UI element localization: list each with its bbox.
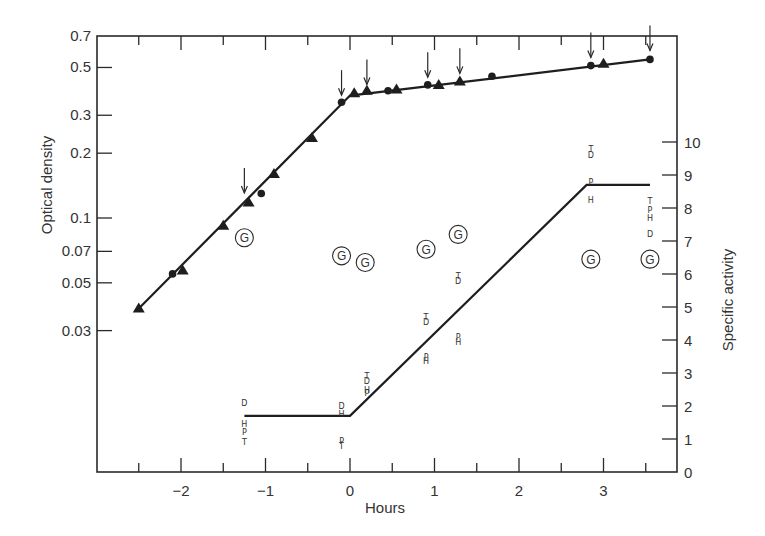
letter-label: D: [423, 318, 429, 327]
triangle-marker: [217, 220, 229, 230]
letter-label: D: [588, 151, 594, 160]
arrow-annotations: [241, 25, 653, 193]
fit-line: [244, 185, 650, 416]
right-y-axis-title: Specific activity: [719, 248, 736, 351]
right-tick-label: 10: [684, 134, 701, 151]
x-tick-label: 3: [599, 482, 607, 499]
g-label: G: [337, 249, 346, 263]
letter-label: D: [241, 399, 247, 408]
left-tick-label: 0.7: [70, 27, 91, 44]
letter-label: H: [647, 214, 653, 223]
x-tick-label: −1: [257, 482, 274, 499]
x-axis-title: Hours: [365, 499, 405, 516]
right-tick-label: 9: [684, 167, 692, 184]
left-tick-label: 0.3: [70, 106, 91, 123]
right-y-axis: 012345678910: [662, 134, 701, 481]
g-label: G: [586, 253, 595, 267]
circle-marker: [338, 98, 346, 106]
right-tick-label: 6: [684, 266, 692, 283]
x-tick-label: 1: [430, 482, 438, 499]
right-tick-label: 4: [684, 332, 692, 349]
right-tick-label: 1: [684, 431, 692, 448]
circle-marker: [424, 81, 432, 89]
letter-label: P: [242, 428, 247, 437]
left-y-axis-title: Optical density: [38, 135, 55, 234]
right-tick-label: 5: [684, 299, 692, 316]
circle-marker: [169, 270, 177, 278]
x-tick-label: 0: [346, 482, 354, 499]
g-circle-markers: GGGGGGG: [235, 225, 659, 271]
chart: −2−10123 0.030.050.070.10.20.30.50.7 012…: [0, 0, 765, 536]
letter-label: P: [588, 178, 593, 187]
g-label: G: [361, 256, 370, 270]
letter-label: D: [455, 277, 461, 286]
letter-label: H: [423, 357, 429, 366]
right-tick-label: 3: [684, 365, 692, 382]
letter-label: H: [455, 338, 461, 347]
left-tick-label: 0.2: [70, 144, 91, 161]
letter-label: T: [338, 442, 344, 451]
left-tick-label: 0.03: [62, 322, 91, 339]
right-tick-label: 2: [684, 398, 692, 415]
right-tick-label: 0: [684, 464, 692, 481]
circle-marker: [488, 72, 496, 80]
letter-annotations: DHPTDHPTTDHPTDPHTDPHTDPHTPHD: [241, 145, 653, 451]
letter-label: D: [647, 230, 653, 239]
triangle-marker: [454, 76, 466, 86]
letter-label: H: [588, 196, 594, 205]
g-label: G: [453, 228, 462, 242]
left-tick-label: 0.05: [62, 274, 91, 291]
g-label: G: [421, 243, 430, 257]
left-tick-label: 0.5: [70, 58, 91, 75]
letter-label: H: [339, 410, 345, 419]
fit-lines: [139, 59, 650, 416]
g-label: G: [645, 253, 654, 267]
g-label: G: [240, 231, 249, 245]
right-tick-label: 8: [684, 200, 692, 217]
left-tick-label: 0.1: [70, 209, 91, 226]
left-tick-label: 0.07: [62, 242, 91, 259]
triangle-marker: [598, 58, 610, 68]
x-tick-label: 2: [515, 482, 523, 499]
circle-marker: [257, 190, 265, 198]
x-axis: −2−10123: [139, 36, 646, 499]
fit-line: [139, 59, 650, 308]
data-markers: [133, 56, 654, 313]
circle-marker: [384, 87, 392, 95]
right-tick-label: 7: [684, 233, 692, 250]
circle-marker: [587, 62, 595, 70]
x-tick-label: −2: [172, 482, 189, 499]
letter-label: T: [241, 438, 247, 447]
letter-label: P: [364, 389, 369, 398]
triangle-marker: [348, 87, 360, 97]
triangle-marker: [361, 85, 373, 95]
left-y-axis: 0.030.050.070.10.20.30.50.7: [62, 27, 112, 339]
circle-marker: [646, 56, 654, 64]
